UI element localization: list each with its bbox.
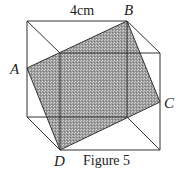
vertex-label-a: A — [10, 62, 19, 77]
figure-caption: Figure 5 — [83, 154, 130, 168]
dimension-label: 4cm — [70, 4, 94, 18]
depth-edge-top-left — [27, 21, 60, 53]
vertex-label-d: D — [54, 154, 65, 169]
vertex-label-b: B — [124, 3, 133, 18]
vertex-label-c: C — [164, 96, 174, 111]
cube-figure: 4cm A B C D Figure 5 — [0, 0, 184, 171]
cube-diagram — [0, 0, 184, 171]
depth-edge-bottom-right — [127, 117, 160, 150]
